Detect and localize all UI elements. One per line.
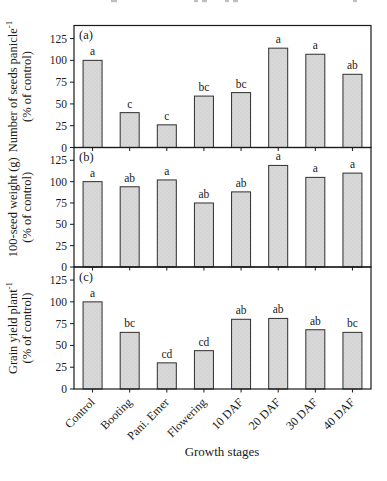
significance-letter: a bbox=[276, 150, 281, 162]
bar bbox=[343, 173, 362, 267]
panel-c-ylabel-line2: (% of control) bbox=[20, 293, 34, 364]
caption-fragment bbox=[353, 0, 357, 2]
bar bbox=[157, 180, 176, 267]
significance-letter: a bbox=[276, 33, 281, 45]
significance-letter: c bbox=[127, 98, 132, 110]
significance-letter: ab bbox=[199, 188, 210, 200]
panel-c-ylabel-superscript: -1 bbox=[4, 282, 14, 290]
significance-letter: ab bbox=[236, 177, 247, 189]
y-tick-label: 125 bbox=[50, 33, 68, 45]
bar bbox=[343, 332, 362, 389]
bar bbox=[83, 60, 102, 147]
significance-letter: ab bbox=[310, 315, 321, 327]
bar bbox=[232, 192, 251, 267]
x-tick-label: 10 DAF bbox=[209, 395, 247, 433]
y-tick-label: 100 bbox=[50, 296, 68, 308]
bar bbox=[194, 351, 213, 389]
figure-canvas: accbcbcaaab0255075100125(a)aabaababaaa02… bbox=[0, 0, 387, 481]
significance-letter: ab bbox=[236, 304, 247, 316]
panel-frame bbox=[74, 26, 371, 148]
panel-a-ylabel-superscript: -1 bbox=[4, 21, 14, 29]
panel-a-ylabel-line1: Number of seeds panicle-1 bbox=[4, 21, 20, 152]
x-tick-label: Control bbox=[62, 395, 98, 431]
significance-letter: ab bbox=[273, 303, 284, 315]
significance-letter: cd bbox=[161, 348, 172, 360]
caption-fragment bbox=[194, 0, 198, 2]
bar bbox=[194, 96, 213, 147]
panel-label: (c) bbox=[79, 270, 93, 284]
caption-fragment bbox=[225, 0, 229, 2]
panel-frame bbox=[74, 148, 371, 268]
bar bbox=[120, 113, 139, 148]
y-tick-label: 0 bbox=[61, 142, 67, 154]
x-tick-label: 40 DAF bbox=[320, 395, 358, 433]
bar bbox=[194, 203, 213, 267]
y-tick-label: 50 bbox=[56, 218, 68, 230]
significance-letter: a bbox=[350, 158, 355, 170]
caption-fragment bbox=[111, 0, 117, 2]
y-tick-label: 25 bbox=[56, 240, 68, 252]
x-axis-title: Growth stages bbox=[185, 444, 260, 459]
y-tick-label: 25 bbox=[56, 361, 68, 373]
panel-label: (b) bbox=[79, 150, 94, 164]
bar bbox=[269, 48, 288, 147]
caption-fragment bbox=[202, 0, 207, 2]
panel-b-ylabel-line1: 100-seed weight (g) bbox=[6, 157, 20, 257]
significance-letter: bc bbox=[347, 317, 358, 329]
bar bbox=[120, 187, 139, 267]
significance-letter: a bbox=[164, 165, 169, 177]
bar bbox=[83, 182, 102, 267]
significance-letter: ab bbox=[124, 172, 135, 184]
significance-letter: bc bbox=[199, 81, 210, 93]
significance-letter: c bbox=[164, 110, 169, 122]
bar bbox=[83, 302, 102, 389]
x-tick-label: Flowering bbox=[164, 395, 209, 440]
significance-letter: ab bbox=[347, 59, 358, 71]
bar bbox=[343, 74, 362, 147]
bar bbox=[306, 177, 325, 267]
y-tick-label: 50 bbox=[56, 98, 68, 110]
significance-letter: a bbox=[90, 167, 95, 179]
panel-c-ylabel-text: Grain yield plant bbox=[6, 289, 20, 374]
y-tick-label: 125 bbox=[50, 274, 68, 286]
significance-letter: bc bbox=[124, 317, 135, 329]
y-tick-label: 75 bbox=[56, 318, 68, 330]
bar bbox=[157, 363, 176, 389]
significance-letter: a bbox=[90, 45, 95, 57]
bar bbox=[306, 54, 325, 147]
panel-label: (a) bbox=[79, 28, 93, 42]
x-tick-label: 30 DAF bbox=[283, 395, 321, 433]
y-tick-label: 75 bbox=[56, 76, 68, 88]
bar bbox=[306, 330, 325, 389]
x-tick-label: 20 DAF bbox=[246, 395, 284, 433]
bar bbox=[157, 125, 176, 148]
bar bbox=[269, 165, 288, 267]
significance-letter: a bbox=[313, 162, 318, 174]
significance-letter: bc bbox=[236, 78, 247, 90]
panel-a-ylabel-line2: (% of control) bbox=[20, 51, 34, 122]
y-tick-label: 25 bbox=[56, 120, 68, 132]
y-tick-label: 0 bbox=[61, 383, 67, 395]
bar bbox=[232, 319, 251, 389]
significance-letter: cd bbox=[199, 336, 210, 348]
bar bbox=[269, 318, 288, 389]
bar bbox=[120, 332, 139, 389]
y-tick-label: 0 bbox=[61, 261, 67, 273]
figure-page: accbcbcaaab0255075100125(a)aabaababaaa02… bbox=[0, 0, 387, 481]
panel-c-ylabel-line1: Grain yield plant-1 bbox=[4, 282, 20, 374]
panel-frame bbox=[74, 267, 371, 389]
y-tick-label: 125 bbox=[50, 154, 68, 166]
y-tick-label: 100 bbox=[50, 176, 68, 188]
bar bbox=[232, 93, 251, 148]
generated-chart-layer: accbcbcaaab0255075100125(a)aabaababaaa02… bbox=[50, 0, 371, 443]
significance-letter: a bbox=[90, 287, 95, 299]
panel-a-ylabel-text: Number of seeds panicle bbox=[6, 28, 20, 152]
y-tick-label: 50 bbox=[56, 339, 68, 351]
y-tick-label: 75 bbox=[56, 197, 68, 209]
panel-b-ylabel-line2: (% of control) bbox=[20, 172, 34, 243]
panel-b-ylabel-text: 100-seed weight (g) bbox=[6, 157, 20, 257]
significance-letter: a bbox=[313, 39, 318, 51]
y-tick-label: 100 bbox=[50, 54, 68, 66]
caption-fragment bbox=[233, 0, 238, 2]
